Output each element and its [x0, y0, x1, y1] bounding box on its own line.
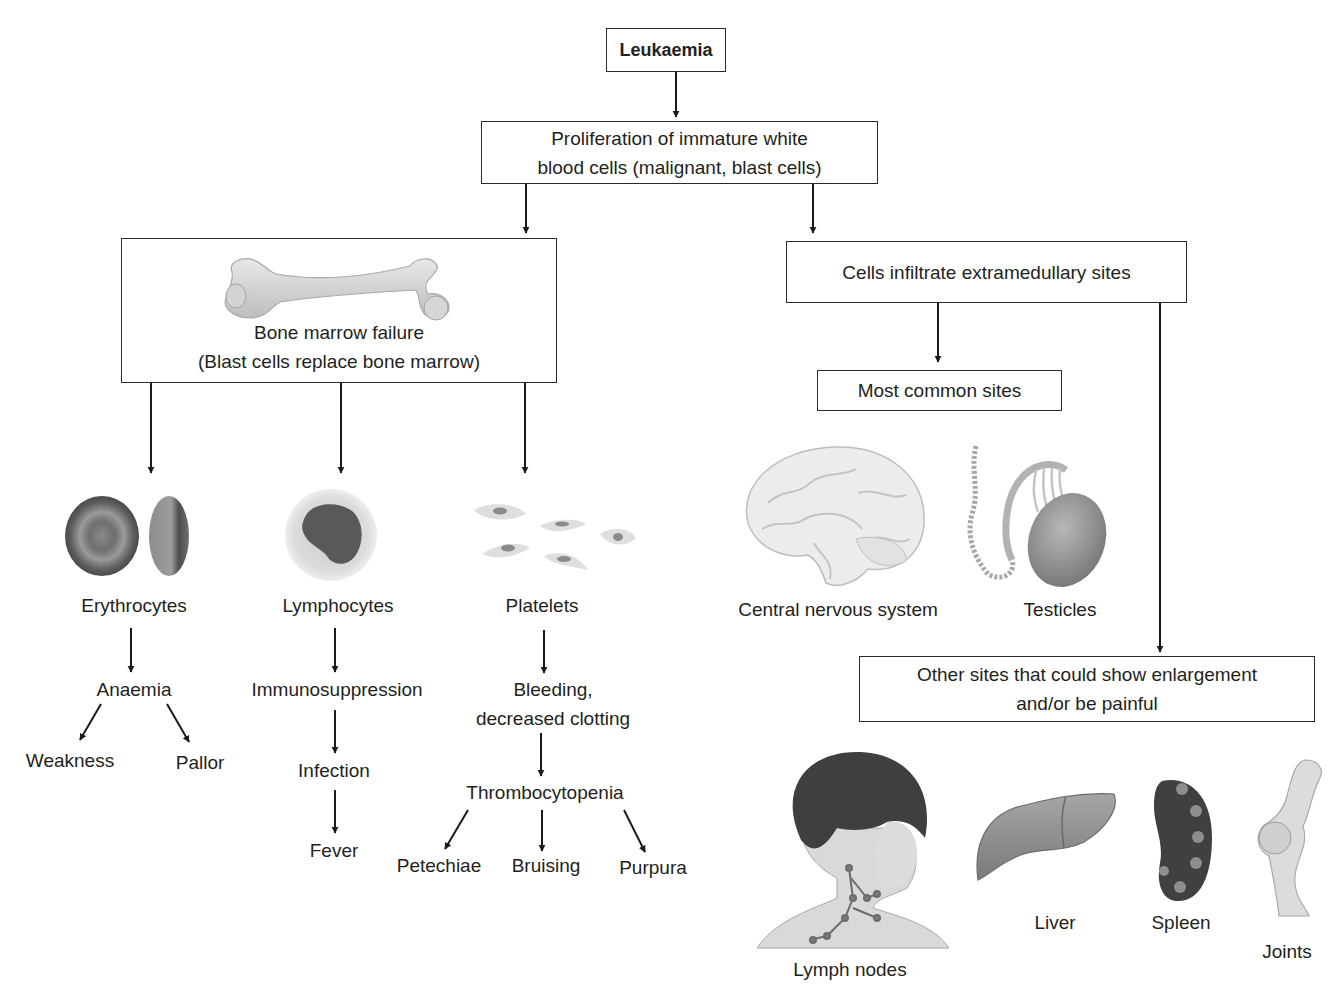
- bruising-label: Bruising: [512, 853, 581, 879]
- other-sites-line-1: Other sites that could show enlargement: [917, 660, 1257, 689]
- testicles-label: Testicles: [1024, 597, 1097, 623]
- leukaemia-title: Leukaemia: [619, 36, 712, 65]
- spleen-icon: [1150, 777, 1216, 905]
- infection-label: Infection: [298, 758, 370, 784]
- proliferation-box: Proliferation of immature white blood ce…: [481, 121, 878, 184]
- red-blood-cells-icon: [62, 495, 192, 577]
- knee-joint-icon: [1253, 756, 1325, 921]
- other-sites-box: Other sites that could show enlargement …: [859, 656, 1315, 722]
- bone-marrow-line-2: (Blast cells replace bone marrow): [198, 347, 480, 376]
- joints-label: Joints: [1262, 939, 1312, 965]
- femur-bone-icon: [220, 252, 455, 322]
- weakness-label: Weakness: [26, 748, 114, 774]
- proliferation-line-1: Proliferation of immature white: [551, 124, 808, 153]
- proliferation-line-2: blood cells (malignant, blast cells): [537, 153, 821, 182]
- anaemia-label: Anaemia: [97, 677, 172, 703]
- most-common-sites-label: Most common sites: [858, 376, 1022, 405]
- purpura-label: Purpura: [619, 855, 687, 881]
- pallor-label: Pallor: [176, 750, 225, 776]
- thrombocytopenia-label: Thrombocytopenia: [466, 780, 623, 806]
- testicle-icon: [962, 440, 1112, 590]
- platelets-label: Platelets: [506, 593, 579, 619]
- lymphocytes-label: Lymphocytes: [282, 593, 393, 619]
- liver-icon: [974, 790, 1120, 886]
- decreased-clotting-label: decreased clotting: [476, 706, 630, 732]
- infiltrate-label: Cells infiltrate extramedullary sites: [842, 258, 1130, 287]
- most-common-sites-box: Most common sites: [817, 370, 1062, 411]
- infiltrate-box: Cells infiltrate extramedullary sites: [786, 241, 1187, 303]
- other-sites-line-2: and/or be painful: [1016, 689, 1158, 718]
- immunosuppression-label: Immunosuppression: [251, 677, 422, 703]
- liver-label: Liver: [1034, 910, 1075, 936]
- leukaemia-title-box: Leukaemia: [606, 28, 726, 72]
- spleen-label: Spleen: [1151, 910, 1210, 936]
- bone-marrow-line-1: Bone marrow failure: [254, 318, 424, 347]
- child-head-lymph-nodes-icon: [757, 748, 952, 953]
- cns-label: Central nervous system: [738, 597, 938, 623]
- brain-icon: [738, 443, 928, 591]
- lymphocyte-cell-icon: [283, 487, 379, 583]
- lymph-nodes-label: Lymph nodes: [793, 957, 906, 983]
- erythrocytes-label: Erythrocytes: [81, 593, 187, 619]
- fever-label: Fever: [310, 838, 359, 864]
- petechiae-label: Petechiae: [397, 853, 482, 879]
- platelets-icon: [470, 498, 640, 578]
- bleeding-label: Bleeding,: [513, 677, 592, 703]
